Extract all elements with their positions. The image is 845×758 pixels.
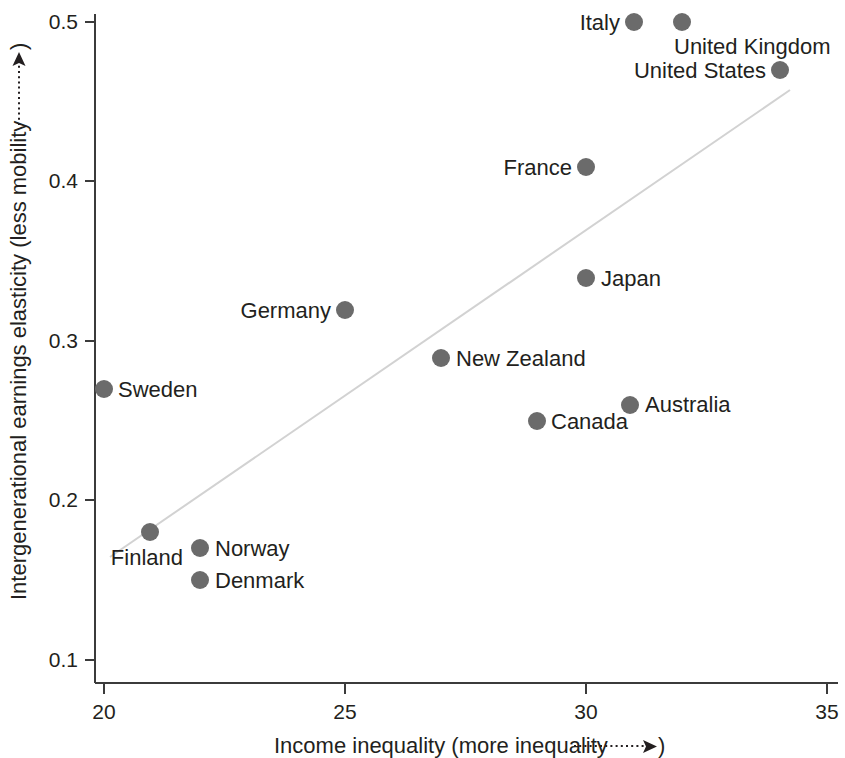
data-point-canada[interactable] bbox=[528, 412, 546, 430]
data-point-new-zealand[interactable] bbox=[432, 349, 450, 367]
y-axis-title: Intergenerational earnings elasticity (l… bbox=[6, 43, 31, 600]
x-axis-arrow-head bbox=[643, 740, 657, 753]
point-label-norway: Norway bbox=[215, 536, 290, 561]
point-label-sweden: Sweden bbox=[118, 377, 198, 402]
data-point-united-kingdom[interactable] bbox=[673, 13, 691, 31]
x-tick-label-30: 30 bbox=[574, 700, 597, 723]
x-axis-title: Income inequality (more inequality ) bbox=[274, 733, 665, 758]
point-label-germany: Germany bbox=[241, 298, 331, 323]
y-axis-title-text: Intergenerational earnings elasticity (l… bbox=[6, 121, 31, 600]
data-point-sweden[interactable] bbox=[95, 380, 113, 398]
data-point-germany[interactable] bbox=[336, 301, 354, 319]
y-tick-label-0.5: 0.5 bbox=[49, 10, 78, 33]
point-label-australia: Australia bbox=[645, 392, 731, 417]
x-tick-label-35: 35 bbox=[815, 700, 838, 723]
chart-canvas: 0.5 0.4 0.3 0.2 0.1 20 25 30 35 Income i… bbox=[0, 0, 845, 758]
x-axis-title-close: ) bbox=[658, 733, 665, 758]
point-label-canada: Canada bbox=[551, 409, 629, 434]
y-tick-label-0.2: 0.2 bbox=[49, 488, 78, 511]
data-point-denmark[interactable] bbox=[191, 571, 209, 589]
data-point-france[interactable] bbox=[577, 158, 595, 176]
point-label-japan: Japan bbox=[601, 266, 661, 291]
y-tick-label-0.4: 0.4 bbox=[49, 169, 79, 192]
point-label-finland: Finland bbox=[111, 545, 183, 570]
y-tick-label-0.1: 0.1 bbox=[49, 648, 78, 671]
data-point-japan[interactable] bbox=[577, 269, 595, 287]
data-point-italy[interactable] bbox=[625, 13, 643, 31]
scatter-chart: 0.5 0.4 0.3 0.2 0.1 20 25 30 35 Income i… bbox=[0, 0, 845, 758]
trend-line bbox=[110, 90, 790, 557]
y-axis-title-close: ) bbox=[6, 43, 31, 50]
x-tick-label-20: 20 bbox=[92, 700, 115, 723]
point-label-new-zealand: New Zealand bbox=[456, 346, 586, 371]
point-label-italy: Italy bbox=[580, 10, 620, 35]
data-point-finland[interactable] bbox=[141, 523, 159, 541]
data-points bbox=[95, 13, 789, 589]
point-label-united-kingdom: United Kingdom bbox=[674, 34, 831, 59]
data-point-norway[interactable] bbox=[191, 539, 209, 557]
point-label-denmark: Denmark bbox=[215, 568, 305, 593]
y-tick-label-0.3: 0.3 bbox=[49, 329, 78, 352]
point-labels: Sweden Finland Norway Denmark Germany Ne… bbox=[111, 10, 831, 593]
y-tick-marks bbox=[85, 22, 95, 660]
point-label-united-states: United States bbox=[634, 58, 766, 83]
y-axis-arrow-head bbox=[13, 52, 26, 66]
data-point-united-states[interactable] bbox=[771, 61, 789, 79]
x-tick-marks bbox=[104, 683, 827, 694]
x-tick-label-25: 25 bbox=[333, 700, 356, 723]
x-axis-title-text: Income inequality (more inequality bbox=[274, 733, 608, 758]
point-label-france: France bbox=[504, 155, 572, 180]
